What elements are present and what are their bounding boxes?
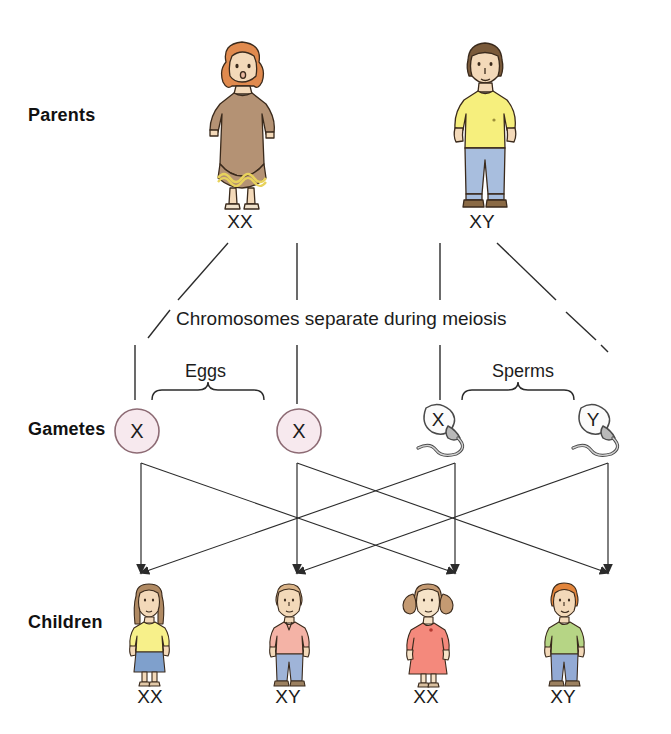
parent-genotype-mother: XX xyxy=(210,211,270,233)
child-genotype-3: XX xyxy=(396,686,456,708)
gamete-egg-x-2-label: X xyxy=(292,420,305,442)
gamete-egg-x-1: X xyxy=(111,405,163,457)
child-genotype-4: XY xyxy=(533,686,593,708)
child-genotype-2: XY xyxy=(258,686,318,708)
row-label-parents: Parents xyxy=(28,105,95,126)
parent-figure-father xyxy=(441,36,529,212)
child-figure-1 xyxy=(118,580,180,690)
child-figure-2 xyxy=(258,580,320,690)
sex-determination-diagram: Parents Gametes Children xyxy=(0,0,671,734)
gamete-sperm-y: Y xyxy=(565,398,643,470)
child-genotype-1: XX xyxy=(120,686,180,708)
child-figure-4 xyxy=(533,580,595,690)
parent-figure-mother xyxy=(196,36,288,212)
row-label-children: Children xyxy=(28,612,103,633)
sperms-label: Sperms xyxy=(492,361,554,382)
gamete-sperm-y-label: Y xyxy=(587,409,600,430)
gamete-egg-x-2: X xyxy=(273,405,325,457)
eggs-brace xyxy=(152,382,264,400)
eggs-label: Eggs xyxy=(185,361,226,382)
child-figure-3 xyxy=(395,580,461,690)
gamete-sperm-x: X xyxy=(410,398,488,470)
fertilisation-arrows xyxy=(141,463,608,573)
gamete-egg-x-1-label: X xyxy=(130,420,143,442)
row-label-gametes: Gametes xyxy=(28,419,105,440)
gamete-sperm-x-label: X xyxy=(432,409,445,430)
parent-genotype-father: XY xyxy=(452,211,512,233)
meiosis-caption: Chromosomes separate during meiosis xyxy=(176,308,507,330)
